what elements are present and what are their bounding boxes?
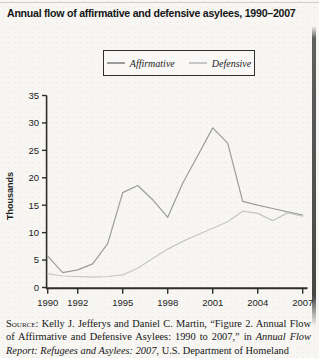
svg-text:2007: 2007 [292,297,313,308]
svg-text:2001: 2001 [202,297,223,308]
svg-text:1990: 1990 [37,297,58,308]
source-segment: , U.S. Department of Homeland [156,345,288,356]
svg-text:30: 30 [28,117,39,128]
svg-text:25: 25 [28,145,39,156]
source-note: Source: Kelly J. Jefferys and Daniel C. … [6,317,311,357]
svg-text:15: 15 [28,200,39,211]
svg-text:0: 0 [34,282,39,293]
svg-text:10: 10 [28,227,39,238]
svg-text:35: 35 [28,90,39,101]
line-chart: 0510152025303519901992199519982001200420… [0,0,319,312]
svg-text:2004: 2004 [247,297,268,308]
svg-text:1998: 1998 [157,297,178,308]
svg-text:1995: 1995 [112,297,133,308]
source-segment: Source: [6,318,42,329]
svg-text:Thousands: Thousands [5,172,15,220]
svg-text:5: 5 [34,254,39,265]
svg-text:1992: 1992 [67,297,88,308]
svg-text:20: 20 [28,172,39,183]
